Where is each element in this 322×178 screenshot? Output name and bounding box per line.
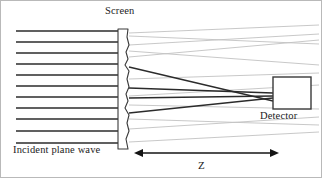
- incident-plane-wave-label: Incident plane wave: [13, 144, 100, 155]
- faint-ray: [129, 132, 319, 142]
- distance-arrow-z: [134, 149, 279, 157]
- dark-ray: [129, 96, 273, 98]
- z-arrow-head-right: [270, 149, 279, 157]
- plane-wave-lines: [16, 31, 119, 143]
- faint-ray: [129, 25, 319, 33]
- detector-label: Detector: [260, 110, 297, 121]
- faint-ray: [129, 51, 319, 65]
- z-arrow-head-left: [134, 149, 143, 157]
- screen-element: [118, 29, 129, 149]
- figure-container: Screen Detector Incident plane wave Z: [0, 0, 322, 178]
- detector-box: [273, 77, 311, 109]
- faint-ray: [129, 34, 319, 45]
- converging-dark-rays: [129, 67, 273, 113]
- distance-z-label: Z: [198, 159, 205, 171]
- screen-label: Screen: [105, 5, 134, 16]
- faint-ray: [129, 36, 319, 44]
